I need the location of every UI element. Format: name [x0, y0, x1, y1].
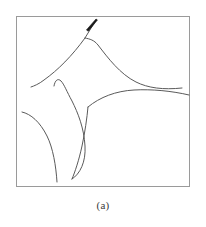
figure-panel: (a) [0, 0, 206, 227]
figure-canvas [0, 0, 206, 227]
figure-caption: (a) [0, 198, 206, 212]
plot-background [0, 0, 206, 227]
